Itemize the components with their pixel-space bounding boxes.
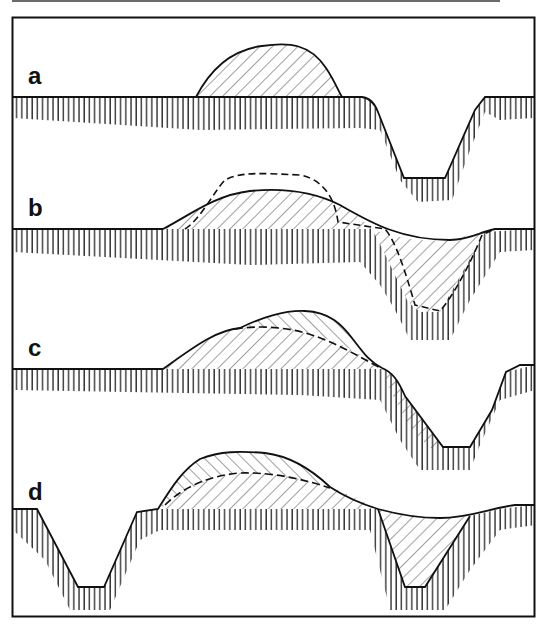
panel-c: c	[13, 311, 535, 470]
panel-label-b: b	[28, 194, 43, 221]
mound-a	[196, 44, 342, 97]
panel-d: d	[13, 452, 535, 610]
panel-a: a	[13, 44, 535, 202]
panel-label-c: c	[28, 334, 41, 361]
panel-label-d: d	[28, 478, 43, 505]
cross-section-figure: a b c d	[0, 0, 545, 627]
mound-b	[163, 190, 372, 229]
panel-label-a: a	[28, 62, 42, 89]
